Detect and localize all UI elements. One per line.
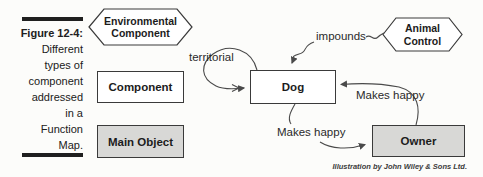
caption-line: types of — [0, 57, 83, 73]
legend-main-object-box: Main Object — [97, 125, 184, 158]
animal-control-line2: Control — [404, 35, 441, 48]
owner-label: Owner — [401, 135, 437, 147]
edge-label-territorial: territorial — [189, 51, 234, 63]
figure-number: Figure 12-4: — [0, 25, 83, 41]
caption-line: component — [0, 73, 83, 89]
dog-label: Dog — [282, 81, 304, 93]
figure-12-4: Figure 12-4: Different types of componen… — [0, 0, 483, 177]
caption-line: Different — [0, 41, 83, 57]
animal-control-line1: Animal — [405, 22, 440, 35]
hexagon-label-line1: Environmental — [104, 15, 177, 28]
edge-label-makes-happy-right: Makes happy — [356, 89, 424, 101]
caption-line: in a — [0, 105, 83, 121]
legend-component-box: Component — [97, 71, 184, 103]
animal-control-label: Animal Control — [382, 17, 463, 52]
impounds-arrow-to-dog — [292, 42, 314, 63]
caption-line: Map. — [0, 137, 83, 153]
edge-label-impounds: impounds — [316, 30, 366, 42]
territorial-double-chevron — [232, 85, 239, 92]
hexagon-label: Environmental Component — [88, 8, 193, 46]
hexagon-label-line2: Component — [111, 27, 169, 40]
legend-environmental-component-hexagon: Environmental Component — [88, 8, 193, 46]
figure-caption: Figure 12-4: Different types of componen… — [0, 25, 83, 153]
illustration-credit: Illustration by John Wiley & Sons Ltd. — [332, 162, 467, 171]
caption-line: addressed — [0, 89, 83, 105]
node-animal-control-hexagon: Animal Control — [382, 17, 463, 52]
makes-happy-dog-to-label-curve — [289, 104, 295, 124]
component-box-label: Component — [109, 81, 173, 93]
main-object-box-label: Main Object — [108, 136, 173, 148]
caption-line: Function — [0, 121, 83, 137]
node-owner-box: Owner — [372, 125, 465, 157]
makes-happy-label-to-owner-arrow — [320, 142, 365, 148]
caption-bottom-rule — [22, 153, 83, 157]
caption-top-rule — [22, 17, 83, 21]
edge-label-makes-happy-left: Makes happy — [277, 126, 345, 138]
node-dog-box: Dog — [250, 70, 336, 104]
